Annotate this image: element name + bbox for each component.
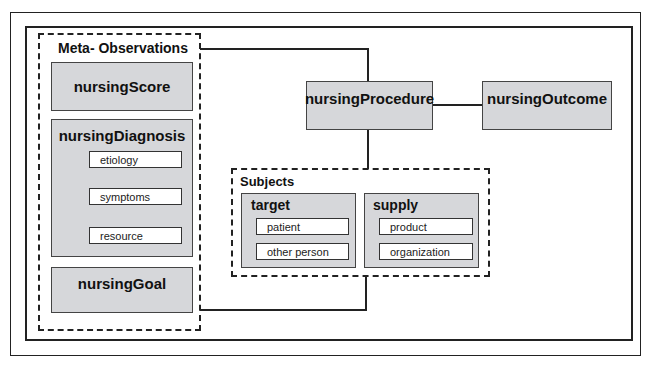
nursing-score-box: nursingScore	[51, 62, 193, 111]
field-product: product	[379, 218, 473, 235]
nursing-goal-box: nursingGoal	[51, 267, 193, 313]
field-symptoms: symptoms	[89, 188, 182, 205]
field-resource: resource	[89, 227, 182, 244]
connector-meta-to-procedure-v	[367, 48, 369, 81]
connector-subjects-to-goal-h	[200, 309, 367, 311]
field-patient: patient	[256, 218, 349, 235]
connector-procedure-to-subjects	[367, 129, 369, 169]
subjects-title: Subjects	[240, 174, 294, 189]
connector-procedure-to-outcome	[432, 104, 482, 106]
connector-subjects-to-goal-v	[365, 276, 367, 310]
nursing-goal-label: nursingGoal	[78, 275, 166, 312]
nursing-procedure-box: nursingProcedure	[306, 81, 433, 130]
field-etiology: etiology	[89, 151, 182, 168]
nursing-outcome-label: nursingOutcome	[487, 90, 607, 129]
field-other-person: other person	[256, 243, 349, 260]
nursing-score-label: nursingScore	[74, 78, 171, 95]
meta-observations-title: Meta- Observations	[58, 40, 188, 56]
nursing-outcome-box: nursingOutcome	[482, 81, 612, 130]
nursing-procedure-label: nursingProcedure	[305, 90, 434, 129]
field-organization: organization	[379, 243, 473, 260]
connector-meta-to-procedure-h	[200, 48, 368, 50]
